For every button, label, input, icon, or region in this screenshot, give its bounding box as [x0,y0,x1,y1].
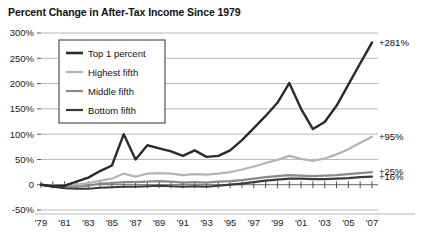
y-tick-label: 150% [10,103,35,114]
x-tick-label: '81 [58,217,70,228]
y-axis-labels: 300%250%200%150%100%50%0-50% [10,27,35,215]
x-tick-label: '89 [153,217,165,228]
end-label-highest-fifth: +95% [379,131,404,142]
y-tick-label: 300% [10,27,35,38]
y-tick-label: 50% [15,154,35,165]
legend-label-middle-fifth: Middle fifth [88,86,134,97]
y-tick-label: 0 [29,179,34,190]
x-tick-label: '95 [224,217,236,228]
chart-legend: Top 1 percentHighest fifthMiddle fifthBo… [59,40,165,123]
x-tick-label: '03 [319,217,331,228]
x-tick-label: '07 [366,217,378,228]
end-label-bottom-fifth: +16% [379,171,404,182]
x-tick-label: '01 [295,217,307,228]
x-tick-label: '85 [106,217,118,228]
legend-label-top-1-percent: Top 1 percent [88,48,146,59]
x-tick-label: '91 [177,217,189,228]
chart-page: Percent Change in After-Tax Income Since… [0,0,421,233]
series-end-labels: +281%+95%+25%+16% [379,37,409,182]
x-tick-label: '93 [200,217,212,228]
x-tick-label: '97 [248,217,260,228]
x-tick-label: '05 [342,217,354,228]
y-tick-label: 200% [10,78,35,89]
y-tick-label: 250% [10,53,35,64]
legend-label-highest-fifth: Highest fifth [88,67,138,78]
x-tick-label: '99 [271,217,283,228]
end-label-top-1-percent: +281% [379,37,409,48]
x-tick-label: '87 [129,217,141,228]
y-tick-label: -50% [12,204,35,215]
line-chart: 300%250%200%150%100%50%0-50% '79'81'83'8… [0,0,421,233]
x-tick-label: '79 [35,217,47,228]
legend-label-bottom-fifth: Bottom fifth [88,105,136,116]
x-tick-label: '83 [82,217,94,228]
x-axis-labels: '79'81'83'85'87'89'91'93'95'97'99'01'03'… [35,217,378,228]
y-axis-ticks [37,33,41,210]
y-tick-label: 100% [10,129,35,140]
